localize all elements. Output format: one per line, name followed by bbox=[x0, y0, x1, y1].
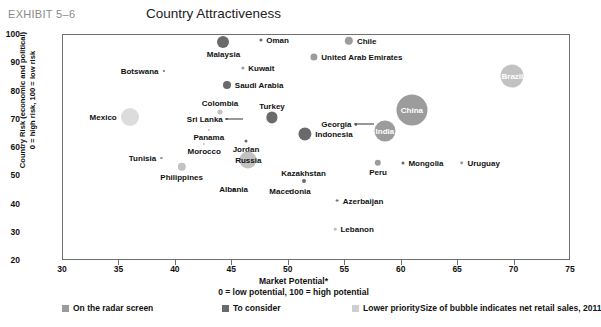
bubble-label-china: China bbox=[401, 106, 423, 115]
bubble-azerbaijan[interactable] bbox=[336, 199, 339, 202]
bubble-label-russia: Russia bbox=[235, 155, 261, 164]
x-tick-mark bbox=[288, 260, 289, 265]
y-tick-label-30: 30 bbox=[0, 227, 20, 237]
y-tick-label-50: 50 bbox=[0, 170, 20, 180]
bubble-label-malaysia: Malaysia bbox=[207, 50, 240, 59]
y-tick-label-80: 80 bbox=[0, 86, 20, 96]
bubble-label-mexico: Mexico bbox=[90, 113, 117, 122]
bubble-label-kuwait: Kuwait bbox=[248, 63, 274, 72]
legend-swatch-icon bbox=[62, 305, 69, 312]
bubble-label-panama: Panama bbox=[193, 133, 224, 142]
legend-entry-2: Lower priority bbox=[352, 303, 420, 313]
legend-entry-0: On the radar screen bbox=[62, 303, 153, 313]
x-tick-label-40: 40 bbox=[170, 264, 179, 274]
bubble-label-saudi-arabia: Saudi Arabia bbox=[235, 80, 284, 89]
bubble-label-sri-lanka: Sri Lanka bbox=[187, 114, 223, 123]
x-tick-label-70: 70 bbox=[509, 264, 518, 274]
legend-label: Lower priority bbox=[363, 303, 420, 313]
bubble-label-azerbaijan: Azerbaijan bbox=[343, 196, 383, 205]
leader-line-georgia bbox=[354, 124, 374, 125]
bubble-uruguay[interactable] bbox=[460, 161, 464, 165]
x-tick-label-45: 45 bbox=[227, 264, 236, 274]
bubble-label-philippines: Philippines bbox=[160, 172, 203, 181]
x-tick-mark bbox=[401, 260, 402, 265]
x-tick-mark bbox=[175, 260, 176, 265]
page-title: Country Attractiveness bbox=[146, 6, 281, 21]
y-tick-label-40: 40 bbox=[0, 199, 20, 209]
x-tick-mark bbox=[118, 260, 119, 265]
bubble-label-lebanon: Lebanon bbox=[340, 224, 373, 233]
bubble-malaysia[interactable] bbox=[217, 36, 229, 48]
bubble-mexico[interactable] bbox=[121, 108, 139, 126]
legend-label: On the radar screen bbox=[73, 303, 153, 313]
bubble-label-colombia: Colombia bbox=[202, 99, 238, 108]
bubble-label-botswana: Botswana bbox=[121, 67, 159, 76]
x-tick-label-65: 65 bbox=[452, 264, 461, 274]
bubble-label-kazakhstan: Kazakhstan bbox=[281, 168, 325, 177]
bubble-label-chile: Chile bbox=[357, 37, 377, 46]
bubble-label-turkey: Turkey bbox=[259, 101, 285, 110]
chart-legend: On the radar screenTo considerLower prio… bbox=[0, 303, 587, 321]
y-tick-label-90: 90 bbox=[0, 57, 20, 67]
y-axis-label: Country Risk (economic and political) 0 … bbox=[18, 10, 38, 190]
y-axis-label-sub: 0 = high risk, 100 = low risk bbox=[28, 51, 37, 149]
bubble-label-albania: Albania bbox=[219, 185, 248, 194]
bubble-label-uruguay: Uruguay bbox=[467, 158, 499, 167]
legend-swatch-icon bbox=[352, 305, 359, 312]
bubble-mongolia[interactable] bbox=[401, 161, 404, 164]
x-tick-label-60: 60 bbox=[396, 264, 405, 274]
bubble-label-mongolia: Mongolia bbox=[408, 158, 443, 167]
x-tick-label-55: 55 bbox=[339, 264, 348, 274]
bubble-label-brazil: Brazil bbox=[502, 72, 524, 81]
bubble-saudi-arabia[interactable] bbox=[223, 81, 231, 89]
bubble-label-tunisia: Tunisia bbox=[129, 154, 156, 163]
bubble-label-georgia: Georgia bbox=[321, 120, 351, 129]
bubble-label-macedonia: Macedonia bbox=[269, 186, 310, 195]
x-tick-mark bbox=[457, 260, 458, 265]
bubble-label-indonesia: Indonesia bbox=[315, 130, 352, 139]
y-tick-label-20: 20 bbox=[0, 255, 20, 265]
x-tick-label-75: 75 bbox=[565, 264, 574, 274]
legend-swatch-icon bbox=[222, 305, 229, 312]
x-tick-mark bbox=[231, 260, 232, 265]
bubble-label-morocco: Morocco bbox=[188, 147, 221, 156]
y-tick-label-60: 60 bbox=[0, 142, 20, 152]
x-tick-mark bbox=[344, 260, 345, 265]
bubble-lebanon[interactable] bbox=[334, 228, 337, 231]
leader-line-sri-lanka bbox=[225, 118, 243, 119]
x-tick-mark bbox=[514, 260, 515, 265]
y-tick-label-70: 70 bbox=[0, 114, 20, 124]
legend-label: To consider bbox=[233, 303, 281, 313]
bubble-label-india: India bbox=[376, 127, 395, 136]
x-axis-label-sub: 0 = low potential, 100 = high potential bbox=[218, 287, 369, 297]
y-tick-label-100: 100 bbox=[0, 29, 20, 39]
x-tick-label-50: 50 bbox=[283, 264, 292, 274]
x-tick-label-35: 35 bbox=[114, 264, 123, 274]
x-axis-label: Market Potential* 0 = low potential, 100… bbox=[0, 276, 587, 298]
bubble-size-note: Size of bubble indicates net retail sale… bbox=[420, 303, 601, 313]
bubble-label-united-arab-emirates: United Arab Emirates bbox=[321, 52, 402, 61]
x-tick-label-30: 30 bbox=[57, 264, 66, 274]
x-axis-label-main: Market Potential* bbox=[259, 276, 328, 286]
bubble-kazakhstan[interactable] bbox=[302, 179, 306, 183]
bubble-label-peru: Peru bbox=[369, 167, 387, 176]
bubble-label-oman: Oman bbox=[266, 36, 289, 45]
legend-entry-1: To consider bbox=[222, 303, 281, 313]
bubble-jordan[interactable] bbox=[245, 140, 248, 143]
